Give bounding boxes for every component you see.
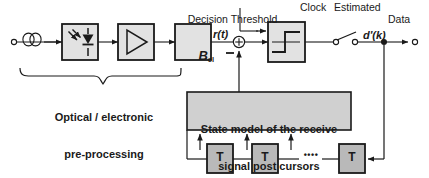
label-data: Data (388, 14, 410, 26)
photodiode-block (62, 24, 98, 60)
filter-label-B: B (198, 48, 207, 63)
fiber-coil-icon (23, 33, 41, 46)
amplifier-block (118, 24, 154, 60)
delay-block-1-label: T (207, 151, 233, 164)
filter-label-sub: el (208, 55, 214, 64)
input-port (11, 39, 16, 44)
summing-junction (233, 36, 244, 47)
label-estimated: Estimated (334, 2, 381, 14)
pre-processing-caption: Optical / electronic pre-processing (24, 86, 184, 178)
pre-processing-brace (20, 68, 181, 84)
pre-processing-caption-line1: Optical / electronic (24, 111, 184, 123)
diagram-canvas: Decision Threshold Clock Estimated Data … (0, 0, 429, 178)
state-model-label: State model of the receive signal post c… (187, 98, 351, 178)
sampling-switch-icon (333, 32, 357, 45)
delay-line-ellipsis: •••• (299, 150, 323, 160)
label-d-hat-k: d'(k) (363, 29, 386, 41)
state-model-line1: State model of the receive (187, 123, 351, 135)
pre-processing-caption-line2: pre-processing (24, 148, 184, 160)
filter-block-label: Bel (184, 34, 214, 78)
delay-block-2-label: T (252, 151, 278, 164)
label-r-of-t: r(t) (213, 28, 228, 40)
label-clock: Clock (300, 2, 326, 14)
output-port (412, 39, 417, 44)
delay-block-3-label: T (339, 151, 365, 164)
